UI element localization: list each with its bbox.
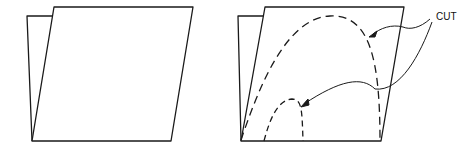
- diagram-canvas: CUT: [0, 0, 473, 153]
- front-panel: [32, 7, 193, 141]
- left-folded-sheet: [27, 7, 193, 141]
- right-folded-sheet: [238, 7, 404, 141]
- cut-label: CUT: [436, 11, 457, 22]
